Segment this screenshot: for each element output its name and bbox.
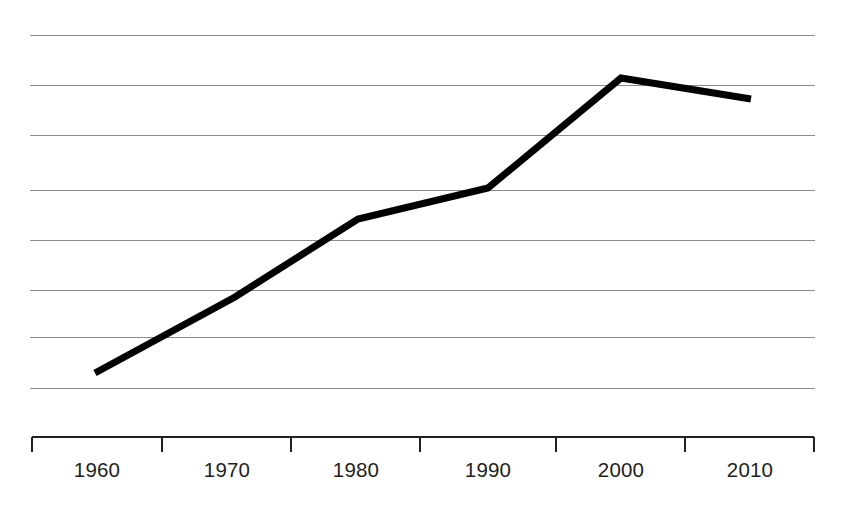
x-axis-tick-label: 2010 <box>727 458 773 481</box>
x-axis-tick-label: 1970 <box>204 458 250 481</box>
chart-background <box>0 0 847 509</box>
line-chart: 196019701980199020002010 <box>0 0 847 509</box>
x-axis-tick-label: 1960 <box>74 458 120 481</box>
chart-canvas: 196019701980199020002010 <box>0 0 847 509</box>
x-axis-tick-label: 2000 <box>598 458 644 481</box>
x-axis-tick-label: 1990 <box>465 458 511 481</box>
x-axis-tick-label: 1980 <box>333 458 379 481</box>
